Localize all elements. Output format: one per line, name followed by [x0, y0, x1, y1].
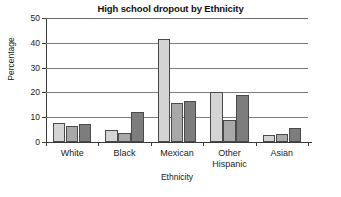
y-tick-label: 30 — [31, 63, 40, 73]
y-tick-label: 10 — [31, 112, 40, 122]
y-axis-line — [46, 18, 47, 142]
x-tick-label: Black — [114, 148, 136, 159]
bar — [171, 103, 184, 142]
bar — [210, 92, 223, 142]
bar — [276, 134, 289, 142]
x-tick-mark — [98, 142, 99, 146]
chart-title: High school dropout by Ethnicity — [0, 3, 341, 14]
bar — [66, 126, 79, 142]
x-axis-line — [46, 142, 312, 143]
bar — [184, 101, 197, 142]
bar — [289, 128, 302, 142]
bar — [105, 130, 118, 142]
y-tick-label: 50 — [31, 13, 40, 23]
x-axis-label: Ethnicity — [46, 172, 308, 182]
x-tick-mark — [308, 142, 309, 146]
y-tick-mark — [42, 43, 46, 44]
bar-group — [105, 18, 144, 142]
y-tick-mark — [42, 68, 46, 69]
x-tick-mark — [46, 142, 47, 146]
bar-group — [53, 18, 92, 142]
x-tick-label: Mexican — [160, 148, 194, 159]
bar-group — [263, 18, 302, 142]
y-tick-label: 40 — [31, 38, 40, 48]
bar — [223, 120, 236, 142]
bar-chart: High school dropout by Ethnicity Percent… — [0, 0, 341, 197]
y-tick-mark — [42, 92, 46, 93]
x-tick-label: Asian — [271, 148, 294, 159]
y-tick-mark — [42, 117, 46, 118]
y-axis-label: Percentage — [6, 24, 16, 94]
plot-area: 01020304050 WhiteBlackMexicanOtherHispan… — [46, 18, 308, 142]
y-tick-mark — [42, 18, 46, 19]
bar-group — [158, 18, 197, 142]
x-tick-mark — [203, 142, 204, 146]
x-tick-label: White — [61, 148, 84, 159]
bar-group — [210, 18, 249, 142]
x-tick-mark — [151, 142, 152, 146]
bar — [79, 124, 92, 142]
bar — [236, 95, 249, 142]
bar — [158, 39, 171, 142]
x-tick-mark — [256, 142, 257, 146]
bar — [53, 123, 66, 142]
y-tick-label: 0 — [35, 137, 40, 147]
y-tick-label: 20 — [31, 87, 40, 97]
bar — [118, 133, 131, 142]
bar — [263, 135, 276, 142]
bar — [131, 112, 144, 143]
x-tick-label: OtherHispanic — [212, 148, 247, 169]
